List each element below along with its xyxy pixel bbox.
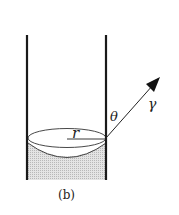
arrowhead-icon (146, 77, 160, 92)
angle-label: θ (110, 109, 118, 124)
meniscus-ellipse (28, 129, 106, 148)
radius-label: r (72, 124, 79, 142)
tension-label: γ (148, 96, 156, 112)
liquid-fill (28, 143, 106, 180)
figure-caption: (b) (58, 188, 75, 202)
